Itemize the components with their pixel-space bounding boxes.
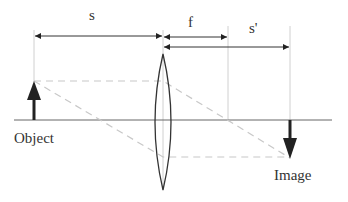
s-prime-label: s' [249,20,258,36]
guide-lines [34,26,290,190]
dimension-arrows [35,36,289,47]
focal-ray [34,81,290,157]
image-arrow [283,120,297,159]
image-label: Image [274,167,312,183]
s-label: s [89,7,95,23]
f-label: f [188,14,193,30]
object-arrow [27,81,41,120]
object-label: Object [14,130,55,146]
thin-lens-diagram: s f s' Object Image [0,0,348,202]
